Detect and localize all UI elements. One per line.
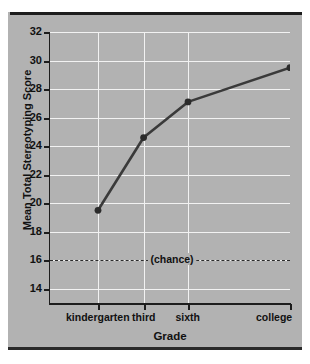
x-tick-label: third [132,311,155,323]
bottom-rule [8,347,302,350]
x-tick-mark [290,304,292,310]
series-markers [95,64,290,213]
x-tick-label: sixth [176,311,201,323]
x-axis-line [49,303,291,305]
y-tick-label: 14 [18,283,42,294]
y-tick-label-wrap: 32 [16,26,42,37]
y-tick-label: 16 [18,254,42,265]
data-point-marker [287,64,290,71]
x-tick-mark [188,304,190,310]
series-polyline [98,68,290,211]
data-series-line [50,32,290,303]
x-tick-label: kindergarten [66,311,130,323]
figure-container: 14161820222426283032 kindergartenthirdsi… [0,0,310,364]
plot-area: (chance) [50,32,290,303]
data-point-marker [95,207,102,214]
data-point-marker [140,134,147,141]
top-rule [10,12,302,15]
data-point-marker [185,98,192,105]
x-tick-label: college [256,311,292,323]
x-axis-title: Grade [50,330,290,342]
y-tick-label-wrap: 14 [16,283,42,294]
x-tick-mark [144,304,146,310]
y-tick-label-wrap: 16 [16,254,42,265]
y-axis-title: Mean Total Stereotyping Score [21,60,33,240]
x-tick-mark [98,304,100,310]
y-tick-label: 32 [18,26,42,37]
